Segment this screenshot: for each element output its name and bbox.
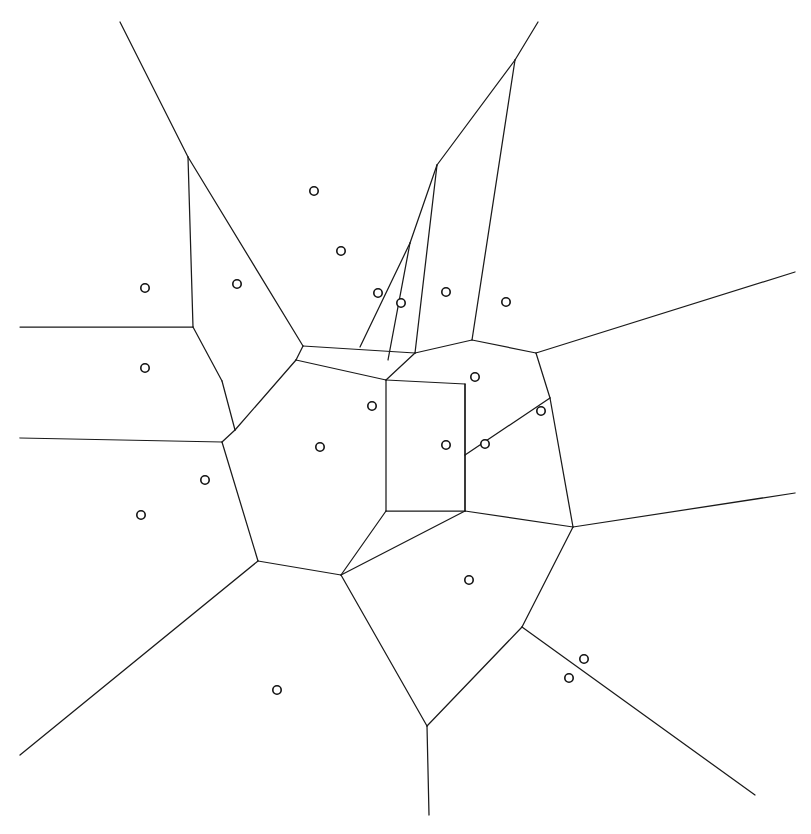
voronoi-site-point: [201, 476, 209, 484]
voronoi-site-point: [141, 364, 149, 372]
voronoi-site-point: [502, 298, 510, 306]
voronoi-site-point: [141, 284, 149, 292]
voronoi-site-point: [337, 247, 345, 255]
voronoi-site-point: [374, 289, 382, 297]
voronoi-site-point: [310, 187, 318, 195]
voronoi-site-point: [481, 440, 489, 448]
voronoi-site-point: [580, 655, 588, 663]
voronoi-site-point: [316, 443, 324, 451]
voronoi-figure: [0, 0, 811, 834]
voronoi-site-point: [565, 674, 573, 682]
voronoi-site-point: [368, 402, 376, 410]
voronoi-canvas: [0, 0, 811, 834]
voronoi-site-point: [442, 288, 450, 296]
voronoi-site-point: [537, 407, 545, 415]
voronoi-site-point: [233, 280, 241, 288]
voronoi-site-point: [397, 299, 405, 307]
voronoi-site-point: [273, 686, 281, 694]
figure-background: [0, 0, 811, 834]
voronoi-site-point: [465, 576, 473, 584]
voronoi-site-point: [137, 511, 145, 519]
voronoi-site-point: [442, 441, 450, 449]
voronoi-site-point: [471, 373, 479, 381]
